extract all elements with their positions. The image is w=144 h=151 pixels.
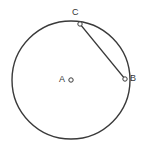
point-marker-a-center xyxy=(69,78,73,82)
point-marker-c xyxy=(78,22,82,26)
vertex-label-b: B xyxy=(130,74,136,83)
point-marker-b xyxy=(123,77,127,81)
vertex-label-c: C xyxy=(72,8,79,17)
vertex-label-a: A xyxy=(59,75,65,84)
geometry-canvas xyxy=(0,0,144,151)
geometry-figure: C B A xyxy=(0,0,144,151)
chord-segment-cb xyxy=(80,24,125,79)
